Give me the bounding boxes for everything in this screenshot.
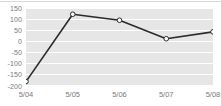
y-axis-tick-label: -100 bbox=[8, 60, 22, 67]
data-point-marker bbox=[26, 79, 28, 84]
y-axis-tick-label: 50 bbox=[14, 27, 22, 34]
series-line bbox=[26, 14, 213, 81]
x-axis-tick-label: 5/07 bbox=[159, 90, 174, 99]
x-axis-tick-label: 5/04 bbox=[19, 90, 34, 99]
data-point-marker bbox=[164, 36, 169, 41]
y-axis-tick-label: -200 bbox=[8, 83, 22, 90]
x-axis-tick-label: 5/06 bbox=[112, 90, 127, 99]
y-axis-tick-label: 0 bbox=[18, 38, 22, 45]
data-point-marker bbox=[211, 30, 213, 35]
top-divider bbox=[0, 1, 221, 2]
series-line-group bbox=[26, 8, 213, 86]
line-chart: 150100500-50-100-150-200 5/045/055/065/0… bbox=[0, 0, 221, 106]
data-point-marker bbox=[117, 18, 122, 23]
y-axis-tick-label: 100 bbox=[10, 16, 22, 23]
data-point-marker bbox=[70, 12, 75, 17]
y-axis: 150100500-50-100-150-200 bbox=[0, 8, 24, 86]
y-axis-tick-label: -150 bbox=[8, 71, 22, 78]
x-axis: 5/045/055/065/075/08 bbox=[26, 90, 213, 102]
series-markers bbox=[26, 12, 213, 84]
y-axis-tick-label: -50 bbox=[12, 49, 22, 56]
x-axis-tick-label: 5/05 bbox=[65, 90, 80, 99]
y-axis-tick-label: 150 bbox=[10, 5, 22, 12]
x-axis-tick-label: 5/08 bbox=[206, 90, 221, 99]
plot-area bbox=[26, 8, 213, 86]
